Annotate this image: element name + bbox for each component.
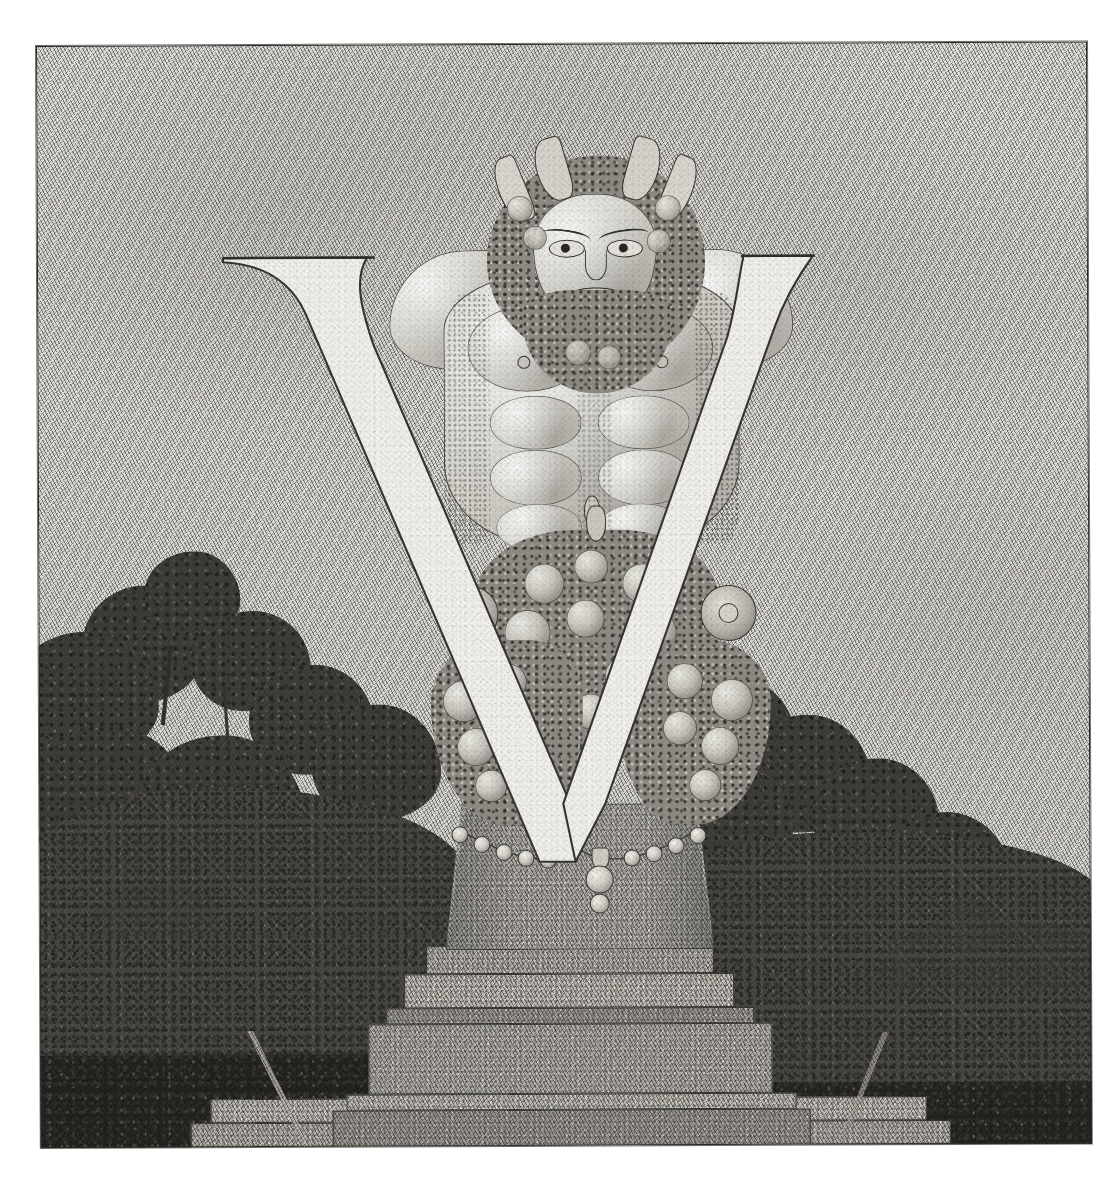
- page-canvas: Ornamental Initial Letter V Grotesque he…: [0, 0, 1120, 1198]
- paper-weave: [36, 41, 1092, 1148]
- engraving-plate: [36, 41, 1092, 1148]
